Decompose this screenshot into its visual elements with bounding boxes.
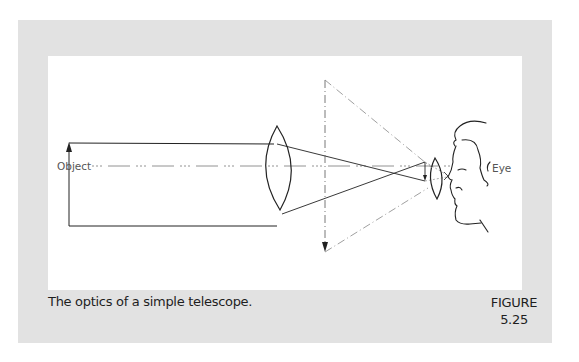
figure-label-number: 5.25	[474, 311, 554, 328]
intermediate-image-arrow	[423, 162, 447, 181]
figure-label-word: FIGURE	[474, 294, 554, 311]
object-label: Object	[57, 160, 91, 172]
parallel-rays	[69, 143, 277, 226]
object-arrow	[66, 142, 72, 226]
figure-caption: The optics of a simple telescope.	[48, 294, 252, 309]
eye-label: Eye	[492, 162, 511, 174]
eyepiece-lens	[430, 158, 448, 199]
observer-head	[448, 121, 490, 232]
objective-lens	[266, 126, 292, 210]
virtual-image-arrow	[322, 80, 328, 252]
figure-number: FIGURE 5.25	[474, 294, 554, 328]
